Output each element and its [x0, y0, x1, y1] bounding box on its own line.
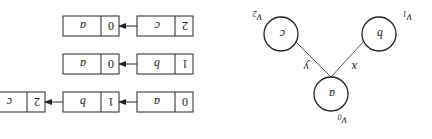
svg-text:b: b — [80, 95, 86, 109]
vertex-name-v0: v0 — [338, 112, 347, 128]
edge-label-x: x — [351, 60, 358, 74]
svg-text:a: a — [80, 57, 86, 71]
svg-text:1: 1 — [182, 57, 188, 71]
vertex-label-c: c — [279, 27, 285, 41]
diagram-canvas: x y a v0 b v1 c v2 0 a 1 b — [0, 0, 432, 139]
graph: x y a v0 b v1 c v2 — [253, 9, 412, 128]
svg-text:c: c — [154, 19, 160, 33]
svg-text:a: a — [80, 19, 86, 33]
vertex-name-v2: v2 — [253, 9, 262, 25]
svg-text:c: c — [6, 95, 12, 109]
svg-text:2: 2 — [34, 95, 40, 109]
edge-label-y: y — [303, 60, 310, 74]
svg-text:2: 2 — [182, 19, 188, 33]
edge-y — [295, 41, 331, 77]
svg-text:0: 0 — [108, 57, 114, 71]
figure: x y a v0 b v1 c v2 0 a 1 b — [0, 0, 432, 139]
svg-text:0: 0 — [108, 19, 114, 33]
svg-text:1: 1 — [108, 95, 114, 109]
vertex-label-b: b — [377, 27, 383, 41]
vertex-name-v1: v1 — [403, 9, 412, 25]
rotated-content: x y a v0 b v1 c v2 0 a 1 b — [0, 0, 432, 139]
svg-text:0: 0 — [182, 95, 188, 109]
list-row-2: 2 c 0 a — [63, 16, 193, 36]
adjacency-list: 0 a 1 b 2 c 1 b — [0, 16, 193, 112]
list-row-1: 1 b 0 a — [63, 54, 193, 74]
list-row-0: 0 a 1 b 2 c — [0, 92, 193, 112]
vertex-label-a: a — [329, 87, 335, 101]
svg-text:b: b — [154, 57, 160, 71]
edge-x — [331, 41, 364, 77]
svg-text:a: a — [154, 95, 160, 109]
